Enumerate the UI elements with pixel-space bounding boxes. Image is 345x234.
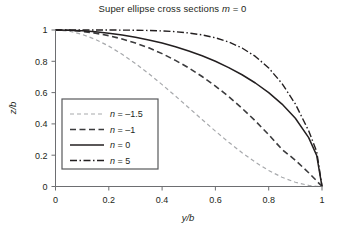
plot-area: 00.20.40.60.81 10.80.60.40.20 y/b z/b n … (0, 0, 345, 234)
x-tick-label: 1 (319, 195, 324, 205)
x-axis-ticks: 00.20.40.60.81 (53, 187, 325, 205)
y-tick-label: 0 (42, 182, 47, 192)
x-tick-label: 0.6 (209, 195, 222, 205)
x-tick-label: 0.4 (156, 195, 169, 205)
y-tick-label: 0.4 (35, 119, 48, 129)
x-tick-label: 0 (53, 195, 58, 205)
y-tick-label: 0.8 (35, 57, 48, 67)
super-ellipse-chart-figure: Super ellipse cross sections m = 0 00.20… (0, 0, 345, 234)
legend-label-0: n = –1.5 (110, 109, 143, 119)
x-axis-label: y/b (181, 212, 195, 223)
chart-legend: n = –1.5n = –1n = 0n = 5 (62, 99, 158, 169)
x-tick-label: 0.8 (262, 195, 275, 205)
legend-label-2: n = 0 (110, 140, 130, 150)
y-axis-ticks: 10.80.60.40.20 (35, 25, 56, 192)
legend-label-1: n = –1 (110, 125, 135, 135)
y-tick-label: 1 (42, 25, 47, 35)
y-axis-label: z/b (7, 102, 18, 116)
y-tick-label: 0.6 (35, 88, 48, 98)
legend-label-3: n = 5 (110, 156, 130, 166)
y-tick-label: 0.2 (35, 151, 48, 161)
x-tick-label: 0.2 (103, 195, 116, 205)
